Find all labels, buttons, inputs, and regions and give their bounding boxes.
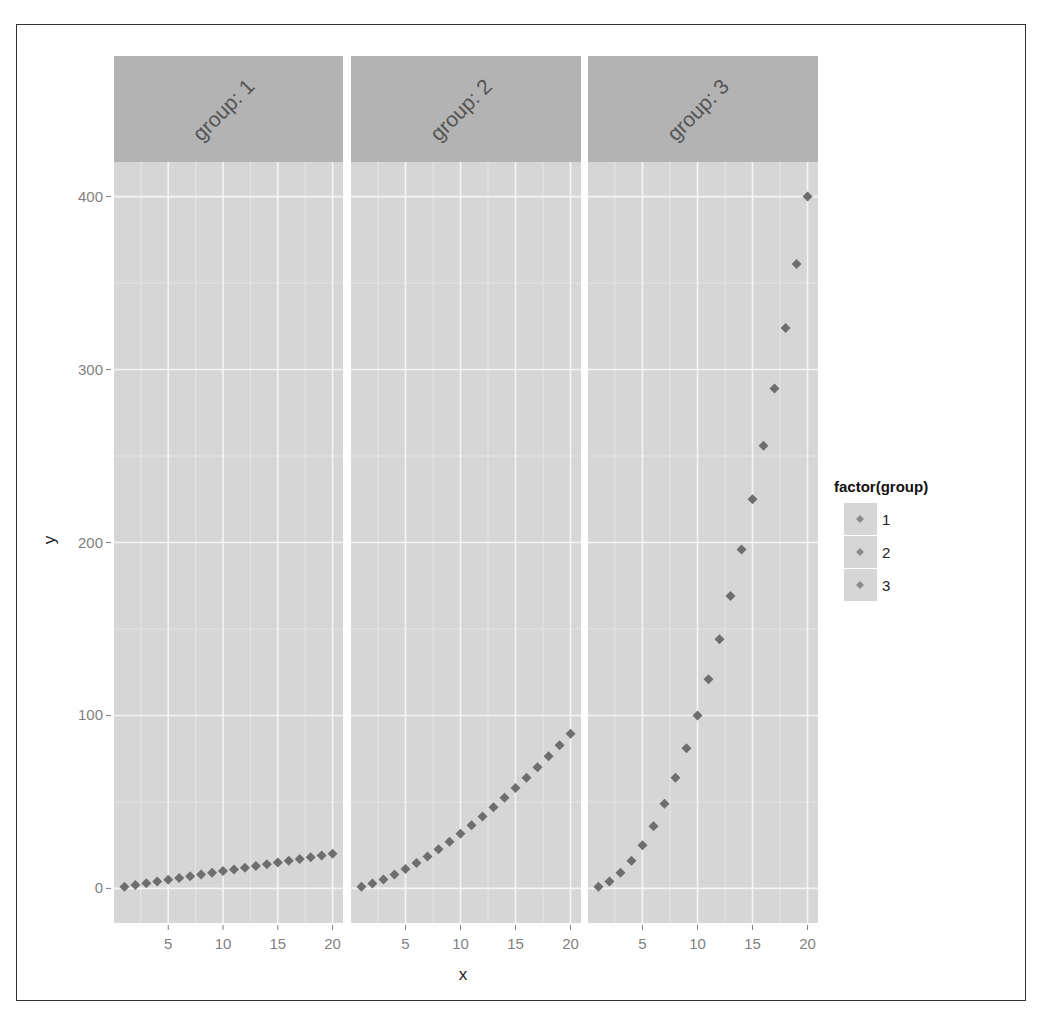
- y-axis: 0100200300400: [78, 188, 111, 897]
- y-tick-label: 400: [78, 188, 103, 205]
- legend-label: 3: [882, 577, 890, 594]
- legend-item-3: 3: [844, 569, 890, 601]
- x-tick-label: 5: [164, 935, 172, 952]
- x-tick-label: 20: [562, 935, 579, 952]
- y-tick-label: 300: [78, 361, 103, 378]
- y-tick-label: 0: [95, 879, 103, 896]
- x-tick-label: 10: [689, 935, 706, 952]
- x-tick-label: 10: [452, 935, 469, 952]
- x-tick-label: 20: [324, 935, 341, 952]
- legend-label: 2: [882, 544, 890, 561]
- x-tick-label: 20: [799, 935, 816, 952]
- legend-label: 1: [882, 511, 890, 528]
- y-axis-title: y: [40, 535, 59, 544]
- facet-panel-3: group: 35101520: [588, 56, 818, 952]
- faceted-scatter-chart: group: 15101520group: 25101520group: 351…: [0, 0, 1043, 1020]
- x-axis-title: x: [459, 965, 468, 984]
- x-tick-label: 15: [269, 935, 286, 952]
- x-tick-label: 15: [507, 935, 524, 952]
- facet-panel-2: group: 25101520: [351, 56, 581, 952]
- legend-item-2: 2: [844, 536, 890, 568]
- x-tick-label: 5: [401, 935, 409, 952]
- x-tick-label: 10: [215, 935, 232, 952]
- facet-panel-1: group: 15101520: [114, 56, 343, 952]
- x-tick-label: 5: [638, 935, 646, 952]
- x-tick-label: 15: [744, 935, 761, 952]
- y-tick-label: 200: [78, 534, 103, 551]
- legend-title: factor(group): [834, 478, 928, 495]
- y-tick-label: 100: [78, 706, 103, 723]
- legend-item-1: 1: [844, 503, 890, 535]
- legend: factor(group) 123: [834, 478, 928, 601]
